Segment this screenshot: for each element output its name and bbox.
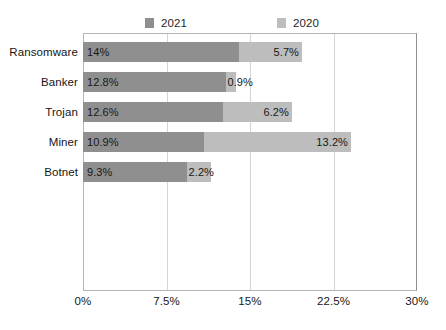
category-label-banker: Banker [0,72,78,92]
legend-swatch-2020 [277,18,286,28]
legend-label-2020: 2020 [293,17,319,29]
legend-label-2021: 2021 [161,17,187,29]
bar-value-label-botnet-2020: 2.2% [189,162,214,182]
category-label-ransomware: Ransomware [0,42,78,62]
bar-row: Miner10.9%13.2% [0,132,446,152]
x-axis: 0%7.5%15%22.5%30% [0,293,446,313]
bar-value-label-miner-2021: 10.9% [87,132,119,152]
x-tick-label: 0% [75,293,92,309]
bar-value-label-trojan-2021: 12.6% [87,102,119,122]
x-tick-label: 22.5% [317,293,350,309]
x-tick-label: 15% [238,293,261,309]
legend-item-2020[interactable]: 2020 [277,13,319,33]
bar-row: Trojan12.6%6.2% [0,102,446,122]
legend-item-2021[interactable]: 2021 [145,13,187,33]
bar-value-label-botnet-2021: 9.3% [87,162,112,182]
x-tick-label: 7.5% [153,293,180,309]
bar-value-label-banker-2020: 0.9% [228,72,253,92]
stacked-bar-chart: 2021 2020 Ransomware14%5.7%Banker12.8%0.… [0,0,446,330]
x-tick-label: 30% [405,293,428,309]
bar-value-label-ransomware-2021: 14% [87,42,109,62]
bar-value-label-trojan-2020: 6.2% [264,102,289,122]
category-label-trojan: Trojan [0,102,78,122]
bar-rows: Ransomware14%5.7%Banker12.8%0.9%Trojan12… [0,33,446,291]
bar-row: Botnet9.3%2.2% [0,162,446,182]
bar-value-label-banker-2021: 12.8% [87,72,119,92]
bar-value-label-ransomware-2020: 5.7% [274,42,299,62]
bar-row: Banker12.8%0.9% [0,72,446,92]
bar-row: Ransomware14%5.7% [0,42,446,62]
legend-swatch-2021 [145,18,154,28]
category-label-botnet: Botnet [0,162,78,182]
bar-value-label-miner-2020: 13.2% [316,132,348,152]
category-label-miner: Miner [0,132,78,152]
chart-legend: 2021 2020 [0,13,446,33]
